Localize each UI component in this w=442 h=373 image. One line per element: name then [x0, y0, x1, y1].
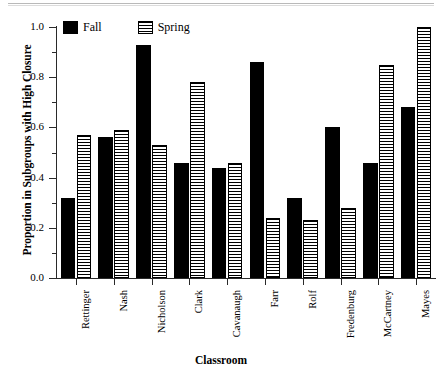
y-axis-tick-minor [52, 153, 56, 154]
bar-fall-mayes [401, 107, 416, 278]
bar-spring-farr [266, 218, 281, 278]
bar-spring-clark [190, 82, 205, 278]
x-axis-tick-label-mayes: Mayes [420, 260, 431, 289]
x-axis-tick-label-fredenburg: Fredenburg [345, 240, 356, 289]
y-axis-tick-major [49, 278, 56, 279]
y-axis-tick-major [49, 228, 56, 229]
bar-fall-farr [250, 62, 265, 278]
x-axis-tick-label-text: Nash [118, 289, 129, 312]
bar-spring-mayes [417, 27, 432, 278]
y-axis-tick-label: 0.4 [0, 171, 44, 183]
y-axis-tick-major [49, 127, 56, 128]
x-axis-tick [341, 279, 342, 285]
x-axis-tick [378, 279, 379, 285]
figure-canvas: Proportion in Subgroups with High Closur… [0, 0, 442, 373]
y-axis-tick-minor [52, 203, 56, 204]
y-axis-tick-minor [52, 102, 56, 103]
x-axis-tick-label-text: Farr [269, 289, 280, 308]
x-axis-tick [76, 279, 77, 285]
x-axis-tick-label-rettinger: Rettinger [80, 249, 91, 289]
legend-swatch-fall [63, 21, 78, 34]
x-axis-tick [416, 279, 417, 285]
x-axis-tick-label-nicholson: Nicholson [156, 245, 167, 289]
top-rule-decoration-secondary [8, 5, 434, 6]
x-axis-tick [152, 279, 153, 285]
y-axis-tick-major [49, 178, 56, 179]
plot-area [57, 27, 435, 278]
x-axis-tick [189, 279, 190, 285]
bar-fall-rolf [287, 198, 302, 278]
chart-legend: FallSpring [63, 20, 190, 35]
bar-fall-clark [174, 163, 189, 278]
top-rule-decoration [8, 3, 434, 4]
x-axis-tick-label-text: Clark [193, 289, 204, 313]
x-axis-tick-label-text: Rettinger [80, 289, 91, 329]
x-axis-tick [114, 279, 115, 285]
bar-spring-nash [114, 130, 129, 278]
y-axis-tick-label: 0.0 [0, 271, 44, 283]
legend-swatch-spring [138, 21, 153, 34]
x-axis-tick-label-text: Cavanaugh [231, 289, 242, 337]
y-axis-tick-label: 1.0 [0, 20, 44, 32]
x-axis-tick-label-text: Mayes [420, 289, 431, 318]
bar-fall-rettinger [61, 198, 76, 278]
x-axis-tick-label-mccartney: McCartney [382, 241, 393, 289]
x-axis-tick-label-cavanaugh: Cavanaugh [231, 241, 242, 289]
y-axis-tick-major [49, 77, 56, 78]
x-axis-tick-label-farr: Farr [269, 271, 280, 290]
bar-fall-nicholson [136, 45, 151, 278]
y-axis-title: Proportion in Subgroups with High Closur… [21, 16, 33, 284]
x-axis-tick-label-nash: Nash [118, 266, 129, 289]
y-axis-tick-label: 0.6 [0, 120, 44, 132]
y-axis-tick-label: 0.2 [0, 221, 44, 233]
legend-label: Fall [83, 20, 102, 35]
x-axis-tick-label-clark: Clark [193, 265, 204, 289]
bar-fall-cavanaugh [212, 168, 227, 278]
y-axis-tick-minor [52, 52, 56, 53]
x-axis-tick-label-text: Rolf [307, 289, 318, 309]
y-axis-tick-minor [52, 253, 56, 254]
x-axis-title: Classroom [0, 354, 442, 366]
legend-entry-spring: Spring [138, 20, 190, 35]
legend-label: Spring [158, 20, 190, 35]
x-axis-tick-label-rolf: Rolf [307, 269, 318, 289]
x-axis-tick-label-text: McCartney [382, 289, 393, 337]
y-axis-tick-major [49, 27, 56, 28]
x-axis-tick [227, 279, 228, 285]
legend-entry-fall: Fall [63, 20, 102, 35]
x-axis-tick [265, 279, 266, 285]
bar-fall-fredenburg [325, 127, 340, 278]
x-axis-tick-label-text: Nicholson [156, 289, 167, 333]
x-axis-tick-label-text: Fredenburg [345, 289, 356, 338]
bar-fall-mccartney [363, 163, 378, 278]
y-axis-tick-label: 0.8 [0, 70, 44, 82]
bar-fall-nash [98, 137, 113, 278]
x-axis-tick [303, 279, 304, 285]
